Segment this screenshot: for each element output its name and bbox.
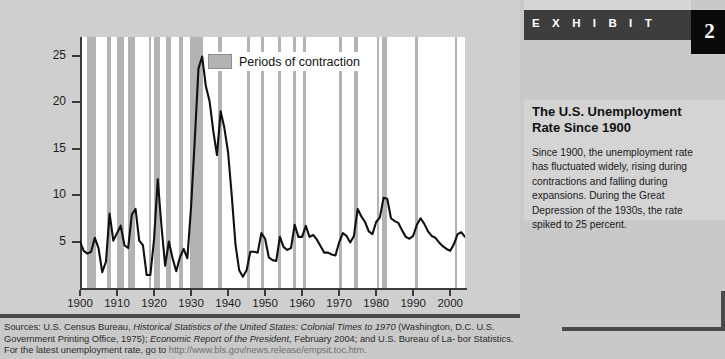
y-tick-mark [72,101,80,103]
sources-note: Sources: U.S. Census Bureau, Historical … [4,322,520,357]
legend-label-contraction: Periods of contraction [239,55,360,69]
exhibit-panel: E X H I B I T 2 The U.S. Unemployment Ra… [520,0,725,359]
y-tick-mark [72,55,80,57]
exhibit-header-label: E X H I B I T [532,17,656,29]
x-tick-label: 2000 [427,297,473,309]
exhibit-right-edge-rule [721,291,725,331]
x-tick-mark [190,290,192,296]
chart-legend: Periods of contraction [205,52,366,71]
x-tick-mark [227,290,229,296]
y-tick-mark [72,241,80,243]
x-tick-mark [301,290,303,296]
sources-line2-suffix: , February 2004; and U.S. Bureau of La- [289,334,455,344]
y-tick-label: 15 [26,141,66,155]
y-tick-label: 10 [26,187,66,201]
unemployment-line-series [80,37,465,288]
x-tick-mark [264,290,266,296]
series-polyline [80,57,465,277]
x-tick-mark [412,290,414,296]
chart-panel: 510152025 190019101920193019401950196019… [0,0,520,314]
exhibit-top-strip [524,0,691,10]
x-tick-mark [79,290,81,296]
sources-line1-suffix: (Washington, D.C. [396,322,474,332]
legend-swatch-contraction [208,54,232,69]
sources-line1-italic: Historical Statistics of the United Stat… [133,322,395,332]
sources-line2-italic: Economic Report of the President [150,334,289,344]
x-tick-mark [338,290,340,296]
y-tick-label: 25 [26,48,66,62]
sources-line1-prefix: Sources: U.S. Census Bureau, [4,322,133,332]
x-tick-mark [153,290,155,296]
y-tick-label: 20 [26,94,66,108]
y-tick-mark [72,194,80,196]
x-tick-mark [449,290,451,296]
sources-url-link[interactable]: http://www.bls.gov/news.release/empsit.t… [169,345,367,355]
y-tick-label: 5 [26,234,66,248]
exhibit-title: The U.S. Unemployment Rate Since 1900 [532,104,692,136]
exhibit-number: 2 [691,19,725,44]
plot-area [80,37,465,288]
x-tick-mark [375,290,377,296]
exhibit-lower-fill [520,220,721,327]
exhibit-bottom-edge-rule [562,327,725,331]
x-tick-mark [116,290,118,296]
x-axis-line [80,288,467,290]
y-tick-mark [72,148,80,150]
exhibit-body-text: Since 1900, the unemployment rate has fl… [532,146,710,232]
sources-divider [0,314,520,318]
